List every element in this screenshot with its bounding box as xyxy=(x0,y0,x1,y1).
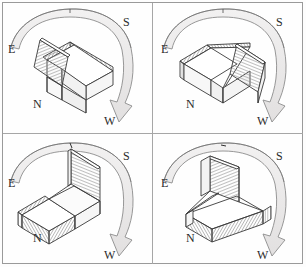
panel-2-drawing xyxy=(153,0,306,133)
figure-canvas: E S N W xyxy=(0,0,306,267)
carton-shape xyxy=(180,43,265,103)
compass-label-west: W xyxy=(257,250,268,261)
rotation-arrow-band xyxy=(164,143,286,256)
compass-label-south: S xyxy=(123,151,130,162)
compass-label-east: E xyxy=(161,178,168,189)
compass-label-north: N xyxy=(33,233,42,244)
compass-label-south: S xyxy=(276,17,283,28)
compass-label-east: E xyxy=(8,44,15,55)
panel-top-right[interactable]: E S N W xyxy=(153,0,306,133)
compass-label-west: W xyxy=(104,250,115,261)
compass-label-south: S xyxy=(276,151,283,162)
panel-4-drawing xyxy=(153,134,306,267)
panel-top-left[interactable]: E S N W xyxy=(0,0,153,133)
compass-label-east: E xyxy=(161,44,168,55)
panel-3-drawing xyxy=(0,134,153,267)
compass-label-north: N xyxy=(33,99,42,110)
carton-shape xyxy=(186,156,271,242)
compass-label-west: W xyxy=(257,116,268,127)
compass-label-west: W xyxy=(104,116,115,127)
panel-bottom-right[interactable]: E S N W xyxy=(153,134,306,267)
panel-1-drawing xyxy=(0,0,153,133)
compass-label-east: E xyxy=(8,178,15,189)
compass-label-north: N xyxy=(186,233,195,244)
carton-shape xyxy=(34,38,113,113)
compass-label-south: S xyxy=(123,17,130,28)
panel-bottom-left[interactable]: E S N W xyxy=(0,134,153,267)
compass-label-north: N xyxy=(186,99,195,110)
